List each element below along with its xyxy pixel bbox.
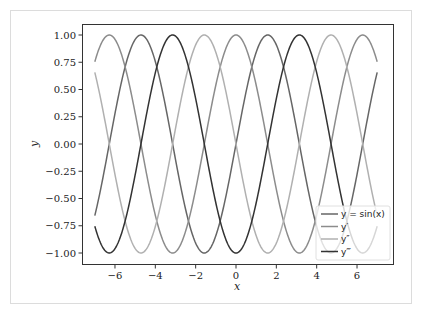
legend-label: y′: [341, 222, 348, 232]
line-chart: −6−4−20246 1.000.750.500.250.00−0.25−0.5…: [0, 0, 423, 316]
y-tick-label: 0.50: [54, 84, 76, 95]
x-tick-label: 2: [273, 270, 279, 281]
x-tick-label: 4: [313, 270, 319, 281]
y-tick-label: −1.00: [45, 248, 76, 259]
legend-label: y = sin(x): [341, 209, 385, 219]
x-axis-label: x: [234, 280, 241, 293]
y-axis-label: y: [28, 140, 41, 148]
y-tick-label: −0.75: [45, 220, 76, 231]
y-tick-label: 1.00: [54, 30, 76, 41]
y-tick-label: 0.75: [54, 57, 76, 68]
legend: y = sin(x)y′y″y‴: [316, 206, 390, 260]
y-tick-label: 0.25: [54, 111, 76, 122]
x-tick-label: −2: [188, 270, 203, 281]
y-tick-label: −0.25: [45, 166, 76, 177]
legend-label: y‴: [341, 247, 351, 257]
x-tick-label: 6: [354, 270, 360, 281]
legend-label: y″: [341, 234, 350, 244]
x-tick-label: −6: [108, 270, 123, 281]
y-tick-label: 0.00: [54, 139, 76, 150]
y-tick-label: −0.50: [45, 193, 76, 204]
x-tick-label: −4: [148, 270, 163, 281]
y-axis-ticks: 1.000.750.500.250.00−0.25−0.50−0.75−1.00: [45, 30, 82, 259]
x-axis-ticks: −6−4−20246: [108, 265, 361, 282]
